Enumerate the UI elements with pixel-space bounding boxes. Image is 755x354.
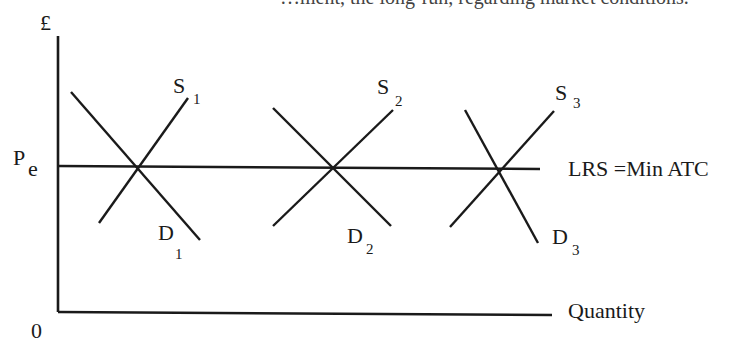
demand-subscript-1: 1 (175, 246, 183, 262)
demand-label-3: D (552, 224, 568, 249)
supply-subscript-2: 2 (395, 93, 403, 109)
demand-subscript-3: 3 (572, 242, 580, 258)
demand-curve-3 (465, 110, 538, 243)
y-axis-label: £ (40, 10, 51, 35)
lrs-label: LRS =Min ATC (568, 156, 709, 181)
demand-label-2: D (347, 223, 363, 248)
lrs-line (58, 166, 540, 169)
supply-subscript-1: 1 (193, 91, 201, 107)
x-axis-label: Quantity (568, 298, 645, 323)
demand-subscript-2: 2 (366, 241, 374, 257)
origin-label: 0 (31, 318, 42, 343)
supply-curve-1 (99, 98, 188, 223)
supply-subscript-3: 3 (573, 95, 581, 111)
price-equilibrium-label: P (13, 145, 25, 170)
supply-label-3: S (555, 80, 567, 105)
market-diagram: …ment, the long-run, regarding market co… (0, 0, 755, 354)
supply-label-1: S (173, 73, 185, 98)
x-axis (58, 312, 552, 315)
cutoff-heading-text: …ment, the long-run, regarding market co… (280, 0, 689, 9)
demand-label-1: D (158, 220, 174, 245)
supply-label-2: S (377, 74, 389, 99)
price-equilibrium-subscript: e (28, 156, 38, 181)
